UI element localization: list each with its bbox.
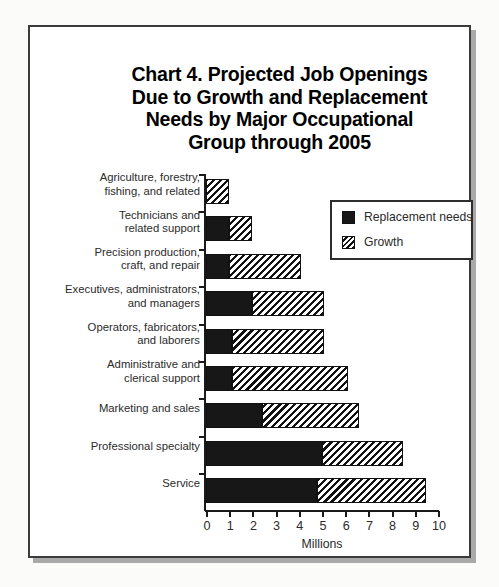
y-axis-tick (199, 398, 205, 400)
bar-row (206, 403, 359, 428)
bar-segment-replacement-needs (206, 329, 232, 354)
x-axis-tick-label: 9 (404, 519, 428, 533)
x-axis-tick (345, 511, 347, 517)
y-axis-tick (199, 324, 205, 326)
y-axis-tick (199, 174, 205, 176)
x-axis-tick-label: 2 (241, 519, 265, 533)
bar-segment-growth (206, 179, 229, 204)
category-label: Professional specialty (42, 440, 200, 453)
x-axis-tick-label: 3 (265, 519, 289, 533)
y-axis-tick (199, 436, 205, 438)
x-axis-tick (392, 511, 394, 517)
x-axis-tick-label: 10 (427, 519, 451, 533)
x-axis-tick-label: 6 (334, 519, 358, 533)
y-axis-tick (199, 361, 205, 363)
category-label: Operators, fabricators, and laborers (42, 321, 200, 348)
chart-page: Chart 4. Projected Job Openings Due to G… (0, 0, 499, 587)
bar-segment-growth (317, 478, 426, 503)
bar-row (206, 254, 301, 279)
x-axis-tick-label: 1 (218, 519, 242, 533)
category-label: Technicians and related support (42, 209, 200, 236)
x-axis-tick (229, 511, 231, 517)
category-label: Service (42, 477, 200, 490)
category-label: Agriculture, forestry, fishing, and rela… (42, 171, 200, 198)
bar-row (206, 366, 348, 391)
category-label: Executives, administrators, and managers (42, 283, 200, 310)
x-axis-tick (322, 511, 324, 517)
x-axis-tick-label: 5 (311, 519, 335, 533)
bar-segment-growth (252, 291, 324, 316)
plot-area: Agriculture, forestry, fishing, and rela… (0, 0, 499, 587)
x-axis-tick (415, 511, 417, 517)
bar-segment-replacement-needs (206, 441, 322, 466)
y-axis-tick (199, 473, 205, 475)
bar-row (206, 291, 324, 316)
category-label: Administrative and clerical support (42, 358, 200, 385)
x-axis-tick-label: 8 (381, 519, 405, 533)
category-label: Precision production, craft, and repair (42, 246, 200, 273)
y-axis-tick (199, 249, 205, 251)
bar-segment-replacement-needs (206, 366, 232, 391)
bar-segment-growth (322, 441, 403, 466)
bar-row (206, 216, 252, 241)
x-axis-tick (299, 511, 301, 517)
bar-row (206, 441, 403, 466)
category-label: Marketing and sales (42, 402, 200, 415)
bar-segment-growth (232, 366, 348, 391)
x-axis-tick-label: 0 (195, 519, 219, 533)
y-axis-tick (199, 211, 205, 213)
x-axis-tick (252, 511, 254, 517)
bar-segment-replacement-needs (206, 403, 262, 428)
bar-segment-replacement-needs (206, 254, 229, 279)
bar-segment-growth (232, 329, 325, 354)
x-axis-tick (276, 511, 278, 517)
x-axis-tick-label: 4 (288, 519, 312, 533)
x-axis-tick (368, 511, 370, 517)
bar-segment-replacement-needs (206, 216, 229, 241)
bar-row (206, 478, 426, 503)
x-axis-tick-label: 7 (357, 519, 381, 533)
y-axis-tick (199, 286, 205, 288)
bar-segment-replacement-needs (206, 291, 252, 316)
bar-row (206, 329, 324, 354)
bar-row (206, 179, 229, 204)
x-axis-tick (438, 511, 440, 517)
bar-segment-growth (262, 403, 359, 428)
x-axis-title: Millions (205, 537, 439, 551)
bar-segment-growth (229, 216, 252, 241)
x-axis-tick (206, 511, 208, 517)
bar-segment-growth (229, 254, 301, 279)
bar-segment-replacement-needs (206, 478, 317, 503)
